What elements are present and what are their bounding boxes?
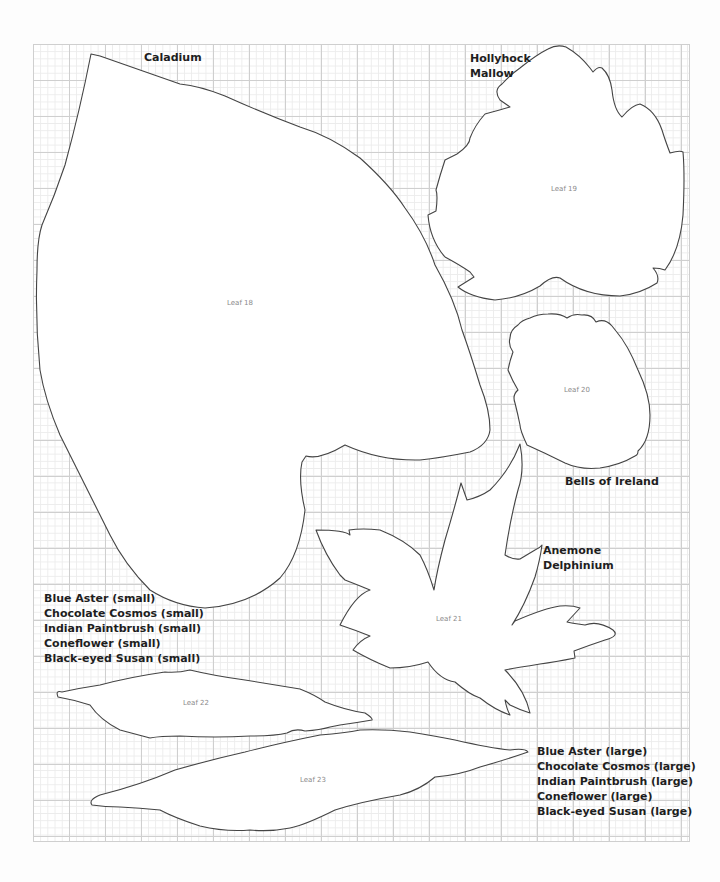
flower-name: Hollyhock [470,51,531,66]
flower-name: Black-eyed Susan (large) [537,804,696,819]
flower-name: Caladium [144,50,202,65]
leaf-19-name: Leaf 19 [551,185,577,193]
flower-name: Chocolate Cosmos (large) [537,759,696,774]
leaf-19-flower-label: Hollyhock Mallow [470,51,531,81]
leaf-22-outline [57,670,372,738]
leaf-20-name: Leaf 20 [564,386,590,394]
flower-name: Coneflower (large) [537,789,696,804]
leaf-23-name: Leaf 23 [300,776,326,784]
flower-name: Blue Aster (small) [44,591,204,606]
flower-name: Delphinium [543,558,614,573]
flower-name: Mallow [470,66,531,81]
flower-name: Indian Paintbrush (large) [537,774,696,789]
flower-name: Chocolate Cosmos (small) [44,606,204,621]
leaf-19-outline [428,46,684,300]
flower-name: Black-eyed Susan (small) [44,651,204,666]
leaf-23-flower-label: Blue Aster (large) Chocolate Cosmos (lar… [537,744,696,819]
flower-name: Bells of Ireland [565,474,659,489]
leaf-22-flower-label: Blue Aster (small) Chocolate Cosmos (sma… [44,591,204,666]
leaf-18-name: Leaf 18 [227,299,253,307]
leaf-18-flower-label: Caladium [144,50,202,65]
template-sheet: Caladium Hollyhock Mallow Bells of Irela… [0,0,720,882]
leaf-18-outline [36,54,490,608]
leaf-21-flower-label: Anemone Delphinium [543,543,614,573]
flower-name: Indian Paintbrush (small) [44,621,204,636]
leaf-22-name: Leaf 22 [183,699,209,707]
leaf-20-flower-label: Bells of Ireland [565,474,659,489]
leaf-21-name: Leaf 21 [436,615,462,623]
flower-name: Coneflower (small) [44,636,204,651]
flower-name: Anemone [543,543,614,558]
flower-name: Blue Aster (large) [537,744,696,759]
